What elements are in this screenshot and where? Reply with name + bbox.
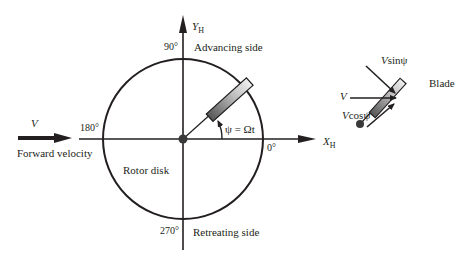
forward-velocity-arrow-icon (54, 133, 72, 143)
inset-hub-dot (356, 120, 364, 128)
angle-180-label: 180° (80, 122, 99, 134)
velocity-symbol: V (31, 117, 38, 129)
x-axis-arrow-icon (298, 135, 316, 143)
inset-vsin-label: Vsinψ (381, 54, 407, 66)
rotor-disk-label: Rotor disk (123, 164, 169, 176)
inset-vcos-label: Vcosψ (342, 109, 370, 121)
x-axis-label: XH (323, 135, 336, 149)
angle-0-label: 0° (267, 142, 276, 154)
inset-v-label: V (340, 90, 347, 102)
forward-velocity-label: Forward velocity (17, 147, 92, 159)
azimuth-arc (218, 121, 222, 139)
retreating-side-label: Retreating side (193, 226, 259, 238)
inset-vsin-arrow (366, 66, 395, 93)
angle-90-label: 90° (164, 41, 178, 53)
advancing-side-label: Advancing side (194, 41, 263, 53)
y-axis-arrow-icon (179, 15, 187, 33)
inset-blade-label: Blade (429, 77, 455, 89)
y-axis-label: YH (192, 20, 204, 34)
azimuth-label: ψ = Ωt (225, 123, 255, 135)
angle-270-label: 270° (160, 225, 179, 237)
hub-dot (179, 135, 188, 144)
